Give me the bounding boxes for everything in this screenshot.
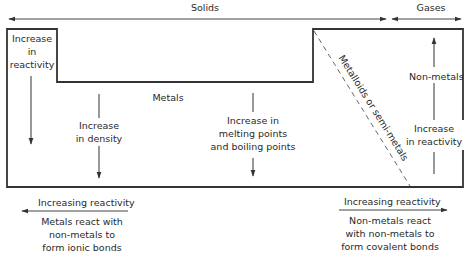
periodic-table-outline <box>7 29 463 187</box>
right-footer-arrow-label: Increasing reactivity <box>344 195 436 208</box>
left-footer-description: Metals react with non-metals to form ion… <box>36 215 128 254</box>
density-label: Increase in density <box>69 119 129 145</box>
solids-label: Solids <box>175 1 235 14</box>
gases-label: Gases <box>406 1 456 14</box>
right-footer-description: Non-metals react with non-metals to form… <box>340 214 440 253</box>
metals-label: Metals <box>148 91 188 104</box>
left-column-label: Increase in reactivity <box>7 32 57 71</box>
melting-label: Increase in melting points and boiling p… <box>208 114 298 153</box>
metalloid-boundary-dashed <box>314 31 410 186</box>
nonmetals-reactivity-label: Increase in reactivity <box>404 122 464 148</box>
nonmetals-label: Non-metals <box>409 70 459 83</box>
left-footer-arrow-label: Increasing reactivity <box>38 196 128 209</box>
